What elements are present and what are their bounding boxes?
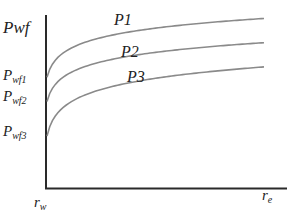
curve-p3 (47, 67, 264, 136)
curve-p2 (47, 43, 264, 102)
pressure-profile-chart: Pwf Pwf1Pwf2Pwf3 P1P2P3 rw re (0, 0, 301, 217)
y-tick-label-wf1: Pwf1 (2, 67, 27, 85)
curve-labels: P1P2P3 (113, 11, 145, 85)
y-tick-label-wf2: Pwf2 (2, 88, 27, 106)
axes (45, 15, 287, 189)
x-tick-label-rw: rw (34, 194, 47, 212)
curve-label-p1: P1 (113, 11, 132, 28)
curves (47, 18, 264, 136)
y-axis-label: Pwf (2, 18, 32, 37)
curve-label-p3: P3 (126, 68, 145, 85)
curve-label-p2: P2 (120, 43, 139, 60)
y-tick-label-wf3: Pwf3 (2, 123, 27, 141)
y-tick-labels: Pwf1Pwf2Pwf3 (2, 67, 27, 141)
x-tick-label-re: re (262, 187, 273, 205)
